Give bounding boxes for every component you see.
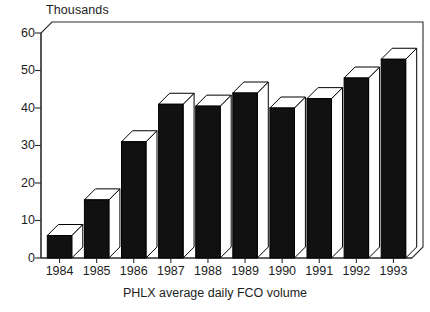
bar-series	[47, 48, 416, 258]
x-tick-label: 1985	[76, 264, 118, 278]
bar	[196, 95, 231, 258]
bar-side-face	[220, 95, 231, 258]
bar	[307, 88, 342, 258]
x-axis-tick-marks	[60, 258, 394, 263]
bar-side-face	[406, 48, 417, 258]
x-tick-label: 1993	[372, 264, 414, 278]
bar	[344, 67, 379, 258]
bar-side-face	[257, 82, 268, 258]
bar-front-face	[122, 142, 146, 258]
x-tick-label: 1992	[335, 264, 377, 278]
bar	[122, 131, 157, 258]
x-tick-label: 1991	[298, 264, 340, 278]
bar-front-face	[381, 59, 405, 258]
bar-side-face	[183, 93, 194, 258]
bar	[270, 97, 305, 258]
bar-front-face	[270, 108, 294, 258]
x-tick-label: 1987	[150, 264, 192, 278]
bar-front-face	[196, 106, 220, 258]
bar	[381, 48, 416, 258]
bar	[84, 189, 119, 258]
bar-front-face	[47, 236, 71, 259]
x-tick-label: 1988	[187, 264, 229, 278]
bar	[233, 82, 268, 258]
bar-front-face	[159, 104, 183, 258]
bar-side-face	[294, 97, 305, 258]
bar-side-face	[369, 67, 380, 258]
chart-caption: PHLX average daily FCO volume	[0, 286, 430, 300]
bar-side-face	[146, 131, 157, 258]
bar-side-face	[109, 189, 120, 258]
bar-front-face	[344, 78, 368, 258]
x-tick-label: 1984	[39, 264, 81, 278]
bar	[47, 225, 82, 259]
x-tick-label: 1990	[261, 264, 303, 278]
bar-front-face	[233, 93, 257, 258]
bar-front-face	[307, 99, 331, 258]
x-tick-label: 1986	[113, 264, 155, 278]
bar	[159, 93, 194, 258]
bar-side-face	[331, 88, 342, 258]
y-axis-tick-marks	[35, 33, 41, 258]
x-tick-label: 1989	[224, 264, 266, 278]
chart-container: Thousands 0102030405060 1984198519861987…	[0, 0, 430, 312]
bar-front-face	[84, 200, 108, 258]
